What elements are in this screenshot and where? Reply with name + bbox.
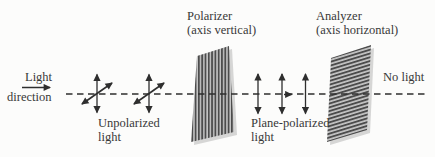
plane-polarized-label-line2: light bbox=[251, 130, 274, 144]
unpolarized-label-line2: light bbox=[98, 130, 121, 144]
light-direction-label-line2: direction bbox=[7, 90, 51, 104]
unpolarized-label-line1: Unpolarized bbox=[98, 116, 160, 130]
polarizer-label-line1: Polarizer bbox=[187, 9, 232, 23]
unpolarized-symbol-1 bbox=[82, 75, 112, 113]
no-light-label: No light bbox=[383, 70, 424, 84]
polarizer-label-line2: (axis vertical) bbox=[187, 23, 256, 37]
analyzer-label-line2: (axis horizontal) bbox=[316, 23, 398, 37]
plane-polarized-label-line1: Plane-polarized bbox=[251, 116, 329, 130]
light-direction-label-line1: Light bbox=[25, 70, 52, 84]
polarization-figure: Light direction Unpolarized light Polari… bbox=[0, 0, 435, 157]
analyzer-panel bbox=[327, 45, 374, 145]
analyzer-label-line1: Analyzer bbox=[316, 9, 362, 23]
polarizer-panel bbox=[191, 46, 237, 145]
